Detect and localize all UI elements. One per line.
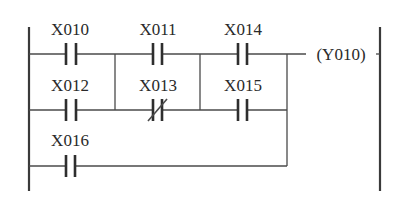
contact-label: X012 [51,76,89,95]
contact-x011: X011 [139,20,176,65]
contact-label: X013 [139,76,177,95]
contact-x016: X016 [51,131,89,177]
contact-x014: X014 [224,20,262,65]
contact-x013: X013 [139,76,177,121]
contact-label: X011 [139,20,176,39]
ladder-diagram: X010 X011 X014 X012 X013 X015 X016 (Y [0,0,397,207]
contact-label: X014 [224,20,262,39]
contact-x010: X010 [51,20,89,65]
contact-label: X016 [51,131,89,150]
coil-y010: (Y010) [316,45,365,64]
contact-x012: X012 [51,76,89,121]
contact-x015: X015 [224,76,262,121]
coil-label: (Y010) [316,45,365,64]
contact-label: X015 [224,76,262,95]
contact-label: X010 [51,20,89,39]
